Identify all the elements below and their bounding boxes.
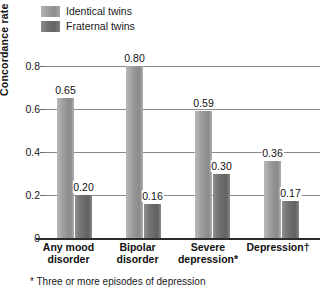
legend-swatch-identical-twins [41, 6, 60, 17]
legend-item-identical-twins: Identical twins [41, 5, 135, 17]
bar-identical-any-mood-disorder: 0.65 [57, 98, 74, 238]
x-label-bipolar-disorder-line2: disorder [100, 253, 175, 265]
bar-value-identical-severe-depression: 0.59 [192, 97, 214, 109]
chart-footnotes: * Three or more episodes of depression [30, 275, 205, 288]
plot-area: 0.65 0.20 0.80 0.16 0.59 0.30 [46, 66, 320, 238]
x-label-depression: Depression† [238, 241, 318, 253]
x-axis-line [36, 238, 320, 240]
x-label-any-mood-disorder-line2: disorder [31, 253, 106, 265]
bar-value-identical-any-mood-disorder: 0.65 [54, 84, 76, 96]
y-axis-title: Concordance rate [0, 4, 10, 96]
bar-identical-severe-depression: 0.59 [195, 111, 212, 238]
y-tick-label-0.2: 0.2 [2, 189, 40, 201]
bar-identical-bipolar-disorder: 0.80 [126, 66, 143, 238]
bar-value-fraternal-depression: 0.17 [279, 187, 301, 199]
bar-group-severe-depression: 0.59 0.30 [195, 66, 230, 238]
bar-group-bipolar-disorder: 0.80 0.16 [126, 66, 161, 238]
bar-value-identical-bipolar-disorder: 0.80 [123, 52, 145, 64]
y-tick-label-0.4: 0.4 [2, 146, 40, 158]
x-label-severe-depression: Severe depression* [169, 241, 247, 265]
legend-label-fraternal-twins: Fraternal twins [66, 21, 135, 32]
x-label-depression-line1: Depression† [246, 241, 309, 253]
x-label-severe-depression-line1: Severe [191, 241, 225, 253]
bar-fraternal-any-mood-disorder: 0.20 [75, 195, 92, 238]
footnote-asterisk: * Three or more episodes of depression [30, 275, 205, 288]
y-tick-label-0.8: 0.8 [2, 60, 40, 72]
bar-group-any-mood-disorder: 0.65 0.20 [57, 66, 92, 238]
bar-value-identical-depression: 0.36 [261, 147, 283, 159]
x-label-any-mood-disorder-line1: Any mood [43, 241, 94, 253]
y-tick-label-0.6: 0.6 [2, 103, 40, 115]
bar-fraternal-depression: 0.17 [282, 201, 299, 238]
x-label-any-mood-disorder: Any mood disorder [31, 241, 106, 265]
bar-value-fraternal-bipolar-disorder: 0.16 [141, 190, 163, 202]
bar-group-depression: 0.36 0.17 [264, 66, 299, 238]
chart-legend: Identical twins Fraternal twins [41, 5, 135, 32]
x-label-bipolar-disorder-line1: Bipolar [119, 241, 155, 253]
legend-swatch-fraternal-twins [41, 21, 60, 32]
bar-value-fraternal-any-mood-disorder: 0.20 [72, 181, 94, 193]
bar-fraternal-bipolar-disorder: 0.16 [144, 204, 161, 238]
bar-value-fraternal-severe-depression: 0.30 [210, 160, 232, 172]
legend-label-identical-twins: Identical twins [66, 6, 132, 17]
bar-fraternal-severe-depression: 0.30 [213, 174, 230, 239]
legend-item-fraternal-twins: Fraternal twins [41, 20, 135, 32]
x-label-bipolar-disorder: Bipolar disorder [100, 241, 175, 265]
concordance-rate-bar-chart: Identical twins Fraternal twins Concorda… [0, 0, 325, 293]
x-label-severe-depression-line2: depression* [169, 253, 247, 265]
